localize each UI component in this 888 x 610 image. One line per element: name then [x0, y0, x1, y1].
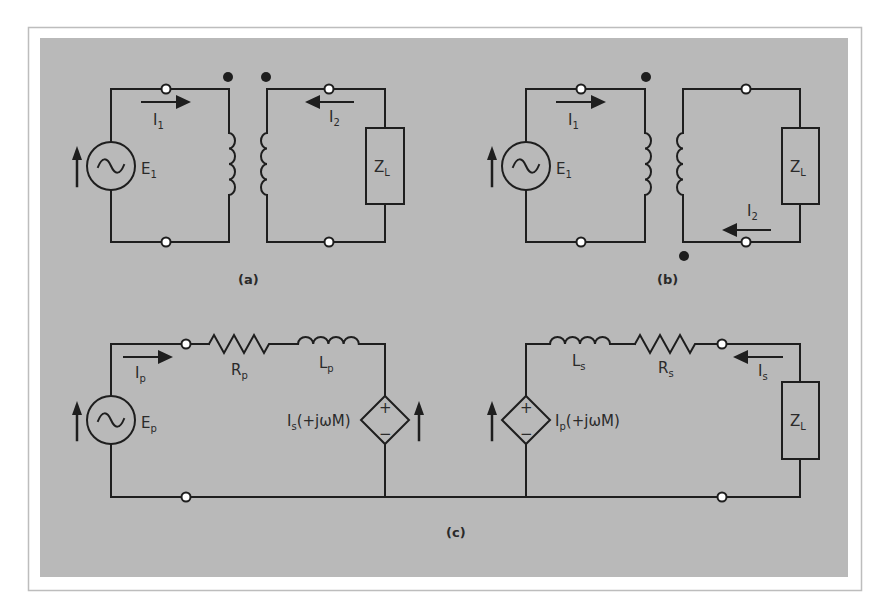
terminal: [182, 493, 191, 502]
minus-sign: −: [520, 425, 533, 443]
plus-sign: +: [379, 399, 392, 417]
transformer-circuit-figure: I1 I2 E1 ZL (a) I1 I2 E1 ZL (b) Ip Rp Lp…: [0, 0, 888, 610]
terminal: [182, 340, 191, 349]
polarity-dot: [261, 72, 271, 82]
polarity-dot: [223, 72, 233, 82]
dep-source-label-primary: Is(+jωM): [287, 412, 351, 432]
terminal: [325, 85, 334, 94]
terminal: [577, 85, 586, 94]
polarity-dot: [679, 251, 689, 261]
terminal: [325, 238, 334, 247]
terminal: [162, 85, 171, 94]
terminal: [718, 493, 727, 502]
terminal: [742, 85, 751, 94]
minus-sign: −: [379, 425, 392, 443]
plus-sign: +: [520, 399, 533, 417]
terminal: [742, 238, 751, 247]
caption-b: (b): [657, 272, 678, 287]
terminal: [162, 238, 171, 247]
caption-c: (c): [446, 525, 466, 540]
caption-a: (a): [238, 272, 259, 287]
terminal: [577, 238, 586, 247]
polarity-dot: [641, 72, 651, 82]
terminal: [718, 340, 727, 349]
